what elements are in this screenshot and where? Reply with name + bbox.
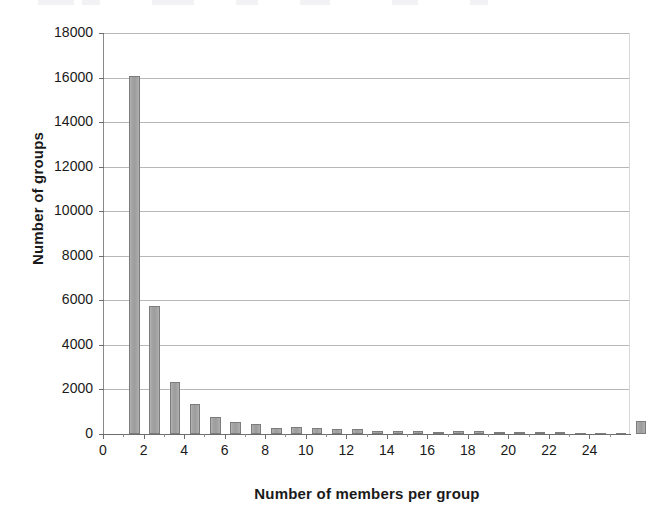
y-axis-tick-label: 2000: [0, 381, 93, 395]
x-axis-minor-tick: [367, 434, 368, 437]
y-axis-tick-label: 14000: [0, 114, 93, 128]
x-axis-tick: [184, 434, 185, 439]
bar: [170, 382, 181, 434]
x-axis-tick-label: 22: [529, 443, 569, 457]
y-axis-tick: [99, 300, 104, 301]
y-axis-tick-label: 4000: [0, 337, 93, 351]
gridline-horizontal: [104, 33, 629, 34]
bar: [230, 422, 241, 434]
gridline-horizontal: [104, 389, 629, 390]
y-axis-tick: [99, 389, 104, 390]
x-axis-minor-tick: [285, 434, 286, 437]
x-axis-tick: [427, 434, 428, 439]
x-axis-tick-label: 14: [367, 443, 407, 457]
top-edge-artifact: [300, 0, 330, 5]
x-axis-tick: [144, 434, 145, 439]
top-edge-artifact: [392, 0, 418, 5]
y-axis-tick: [99, 33, 104, 34]
bar: [129, 76, 140, 434]
plot-area: [103, 33, 630, 434]
gridline-horizontal: [104, 300, 629, 301]
x-axis-tick-label: 16: [407, 443, 447, 457]
y-axis-tick: [99, 167, 104, 168]
y-axis-tick: [99, 211, 104, 212]
x-axis-tick: [468, 434, 469, 439]
top-edge-artifact: [152, 0, 194, 5]
y-axis-tick-label: 6000: [0, 292, 93, 306]
bar: [251, 424, 262, 434]
x-axis-tick: [265, 434, 266, 439]
x-axis-tick: [103, 434, 104, 439]
x-axis-minor-tick: [610, 434, 611, 437]
x-axis-minor-tick: [245, 434, 246, 437]
x-axis-tick-label: 10: [286, 443, 326, 457]
x-axis-minor-tick: [488, 434, 489, 437]
gridline-horizontal: [104, 78, 629, 79]
y-axis-tick-label: 10000: [0, 203, 93, 217]
x-axis-minor-tick: [204, 434, 205, 437]
x-axis-tick-label: 2: [124, 443, 164, 457]
x-axis-tick-label: 20: [488, 443, 528, 457]
x-axis-tick: [508, 434, 509, 439]
x-axis-minor-tick: [569, 434, 570, 437]
y-axis-tick-label: 12000: [0, 159, 93, 173]
gridline-horizontal: [104, 256, 629, 257]
x-axis-title: Number of members per group: [103, 485, 631, 502]
bar: [636, 421, 647, 434]
x-axis-tick-label: 6: [205, 443, 245, 457]
x-axis-minor-tick: [164, 434, 165, 437]
y-axis-tick-label: 18000: [0, 25, 93, 39]
x-axis-tick-label: 4: [164, 443, 204, 457]
y-axis-tick: [99, 78, 104, 79]
x-axis-minor-tick: [326, 434, 327, 437]
x-axis-tick-label: 0: [83, 443, 123, 457]
x-axis-minor-tick: [407, 434, 408, 437]
bar: [190, 404, 201, 434]
gridline-horizontal: [104, 211, 629, 212]
top-edge-artifact: [38, 0, 74, 5]
x-axis-tick: [589, 434, 590, 439]
gridline-horizontal: [104, 122, 629, 123]
bar: [210, 417, 221, 434]
x-axis-tick-label: 12: [326, 443, 366, 457]
x-axis-minor-tick: [529, 434, 530, 437]
top-edge-artifact: [82, 0, 100, 5]
y-axis-tick-label: 8000: [0, 248, 93, 262]
x-axis-tick-label: 18: [448, 443, 488, 457]
x-axis-minor-tick: [123, 434, 124, 437]
x-axis-tick-label: 24: [569, 443, 609, 457]
top-edge-artifact: [470, 0, 488, 5]
x-axis-minor-tick: [448, 434, 449, 437]
y-axis-tick-label: 16000: [0, 70, 93, 84]
x-axis-tick-label: 8: [245, 443, 285, 457]
y-axis-tick: [99, 345, 104, 346]
gridline-horizontal: [104, 167, 629, 168]
y-axis-tick-label: 0: [0, 426, 93, 440]
x-axis-tick: [225, 434, 226, 439]
gridline-horizontal: [104, 345, 629, 346]
bar: [149, 306, 160, 434]
x-axis-tick: [346, 434, 347, 439]
x-axis-tick: [387, 434, 388, 439]
y-axis-tick: [99, 256, 104, 257]
x-axis-tick: [549, 434, 550, 439]
y-axis-tick: [99, 122, 104, 123]
top-edge-artifact: [236, 0, 258, 5]
x-axis-tick: [306, 434, 307, 439]
y-axis-title: Number of groups: [29, 99, 46, 299]
bar: [291, 427, 302, 434]
chart-figure: Number of groups Number of members per g…: [0, 0, 661, 528]
